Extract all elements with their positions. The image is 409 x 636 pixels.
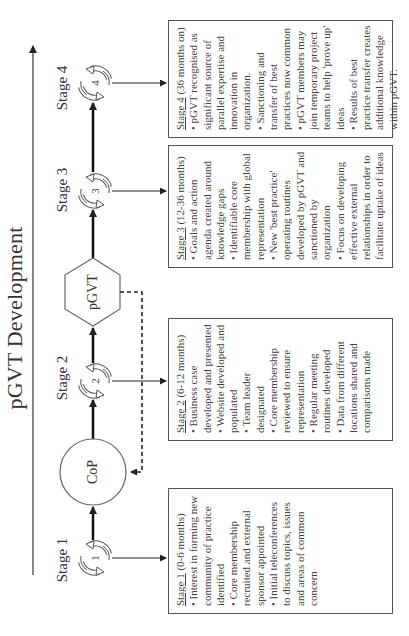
stage-3-heading: Stage 3 — [174, 227, 186, 260]
diagram-frame: pGVT Development Stage 1 Stage 2 Stage 3… — [0, 0, 409, 636]
stage-3-label: Stage 3 — [54, 168, 71, 213]
stage-4-heading: Stage 4 — [174, 97, 186, 130]
stage-1-item: • Initial teleconferences to discuss top… — [267, 493, 320, 606]
stage-4-label: Stage 4 — [54, 66, 71, 111]
stage-3-duration: (12-36 months) — [174, 156, 186, 227]
diagram-title: pGVT Development — [2, 0, 28, 636]
stage-3-item: • Identifiable core membership with glob… — [227, 150, 267, 260]
stage-2-item: • Regular meeting routines developed — [307, 323, 334, 433]
stage-1-box: Stage 1 (0-6 months) • Interest in formi… — [168, 488, 393, 614]
stage-2-label: Stage 2 — [54, 356, 71, 401]
stage-1-duration: (0-6 months) — [174, 513, 186, 573]
stage-1-item: • Core membership recruited and external… — [227, 493, 267, 606]
cop-label: CoP — [85, 460, 101, 484]
stage-4-box: Stage 4 (36 months on) • pGVT recognised… — [168, 20, 393, 138]
stage-3-item: • Focus on developing effective external… — [334, 150, 387, 260]
stage-2-item: • Data from different locations shared a… — [334, 323, 374, 433]
stage-3-item: • Goals and action agenda created around… — [187, 150, 227, 260]
stage-4-duration: (36 months on) — [174, 27, 186, 97]
stage-2-heading: Stage 2 — [174, 400, 186, 433]
cycle-2-icon: 2 — [89, 378, 101, 384]
stage-1-heading: Stage 1 — [174, 573, 186, 606]
stage-2-duration: (6-12 months) — [174, 335, 186, 400]
stage-4-item: • pGVT recognised as significant source … — [187, 25, 253, 130]
cycle-1-icon: 1 — [89, 555, 101, 561]
stage-4-item: • pGVT members may join temporary projec… — [294, 25, 347, 130]
stage-2-item: • Team leader designated — [240, 323, 267, 433]
stage-2-item: • Core membership reviewed to ensure rep… — [267, 323, 307, 433]
cycle-3-icon: 3 — [89, 188, 101, 194]
pgvt-label: pGVT — [85, 274, 101, 310]
stage-1-item: • Interest in forming new community of p… — [187, 493, 227, 606]
stage-1-label: Stage 1 — [54, 538, 71, 583]
stage-3-item: • New 'best practice' operating routines… — [267, 150, 333, 260]
stage-2-item: • Business case developed and presented — [187, 323, 214, 433]
stage-2-item: • Website developed and populated — [214, 323, 241, 433]
stage-4-item: • Results of best practice transfer crea… — [347, 25, 400, 130]
stage-3-box: Stage 3 (12-36 months) • Goals and actio… — [168, 145, 393, 268]
stage-4-item: • Sanctioning and transfer of best pract… — [254, 25, 294, 130]
cycle-4-icon: 4 — [89, 80, 101, 86]
stage-2-box: Stage 2 (6-12 months) • Business case de… — [168, 318, 393, 441]
